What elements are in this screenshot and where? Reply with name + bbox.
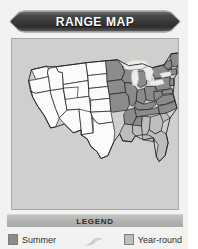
page-title: RANGE MAP (56, 15, 135, 29)
range-map-card: RANGE MAP (0, 0, 188, 249)
lake-michigan (132, 70, 139, 87)
legend-label-year-round: Year-round (138, 235, 182, 245)
map-states-group (29, 53, 178, 162)
state-ks (91, 98, 111, 112)
state-nj (170, 79, 174, 86)
state-ne (89, 86, 110, 100)
bird-silhouette-icon (82, 234, 108, 247)
states-absent (29, 61, 115, 159)
page-right-gutter (188, 0, 198, 249)
legend-swatch-summer (8, 234, 18, 245)
state-nd (86, 61, 107, 76)
legend-label-summer: Summer (22, 235, 56, 245)
legend-item-summer: Summer (8, 234, 56, 245)
legend-header-bar: LEGEND (7, 214, 183, 227)
range-map-card-root: RANGE MAP (0, 0, 198, 249)
state-sd (88, 74, 108, 89)
title-banner-plate: RANGE MAP (10, 11, 180, 32)
usa-range-map-svg (12, 39, 178, 209)
state-fl (146, 130, 168, 162)
legend-header-label: LEGEND (76, 217, 114, 226)
legend-item-year-round: Year-round (124, 234, 182, 245)
title-banner: RANGE MAP (10, 11, 180, 32)
map-panel (11, 38, 179, 210)
state-ia (107, 80, 126, 95)
state-mo (110, 92, 130, 112)
legend-swatch-year-round (124, 234, 134, 245)
